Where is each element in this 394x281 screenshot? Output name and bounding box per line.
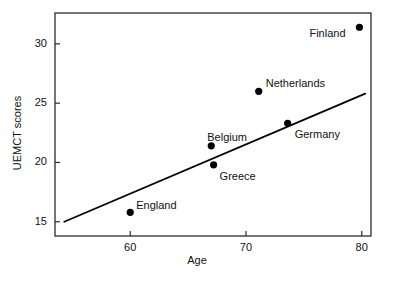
plot-frame bbox=[55, 13, 371, 236]
y-axis-title-text: UEMCT scores bbox=[11, 96, 23, 170]
x-tick-label: 80 bbox=[342, 242, 382, 253]
data-point-label: Belgium bbox=[207, 132, 247, 143]
data-point-marker bbox=[208, 142, 215, 149]
data-point-marker bbox=[284, 120, 291, 127]
y-tick-label: 30 bbox=[13, 38, 47, 49]
trend-line bbox=[64, 94, 365, 222]
y-axis-title: UEMCT scores bbox=[9, 78, 25, 188]
data-point-label: Germany bbox=[295, 129, 340, 140]
data-point-label: Greece bbox=[220, 171, 256, 182]
plot-canvas bbox=[0, 0, 394, 281]
data-points bbox=[127, 24, 363, 216]
scatter-chart-figure: 15202530607080 EnglandBelgiumGreeceNethe… bbox=[0, 0, 394, 281]
data-point-marker bbox=[210, 161, 217, 168]
x-axis-title: Age bbox=[0, 255, 394, 266]
data-point-label: England bbox=[136, 200, 176, 211]
x-tick-label: 70 bbox=[226, 242, 266, 253]
x-tick-label: 60 bbox=[110, 242, 150, 253]
data-point-marker bbox=[255, 88, 262, 95]
y-tick-label: 15 bbox=[13, 216, 47, 227]
data-point-marker bbox=[356, 24, 363, 31]
data-point-label: Netherlands bbox=[266, 78, 325, 89]
data-point-label: Finland bbox=[309, 28, 345, 39]
data-point-marker bbox=[127, 209, 134, 216]
